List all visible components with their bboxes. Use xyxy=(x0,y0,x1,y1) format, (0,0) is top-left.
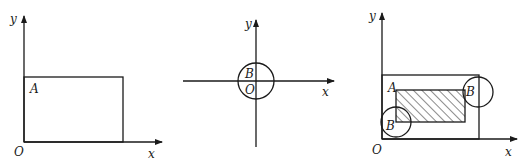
region-a-label: A xyxy=(387,81,397,95)
y-axis-label: y xyxy=(9,12,17,26)
y-axis-label: y xyxy=(368,9,376,23)
origin-label: O xyxy=(14,145,24,159)
region-b-label: B xyxy=(244,67,254,81)
origin-label: O xyxy=(372,143,382,157)
x-axis-label: x xyxy=(505,145,512,159)
region-a-rect xyxy=(24,77,123,142)
hatched-region xyxy=(396,90,465,122)
panel-1: y A O x xyxy=(9,12,162,161)
x-axis-label: x xyxy=(148,147,155,161)
panel-3: y A B B O x xyxy=(368,9,517,159)
x-axis-label: x xyxy=(322,85,329,99)
region-a-label: A xyxy=(29,82,39,96)
y-axis-label: y xyxy=(244,17,252,31)
region-b-bottom-label: B xyxy=(385,119,395,133)
region-b-top-label: B xyxy=(465,85,475,99)
panel-2: y B O x xyxy=(183,17,334,147)
origin-label: O xyxy=(245,83,255,97)
diagram-canvas: y A O x y B O x y A B B O x xyxy=(0,0,526,166)
